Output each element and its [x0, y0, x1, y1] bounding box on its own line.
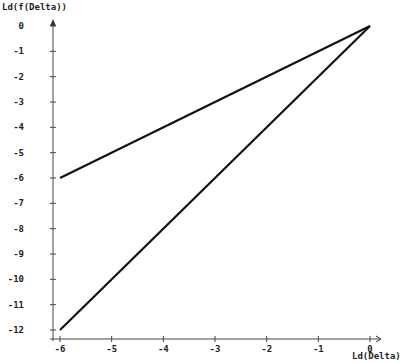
x-tick-label: 0: [367, 344, 372, 354]
x-tick-label: -1: [313, 344, 324, 354]
series-line: [60, 26, 370, 178]
y-tick-label: -1: [13, 46, 24, 56]
y-ticks: 0-1-2-3-4-5-6-7-8-9-10-11-12: [8, 21, 56, 335]
chart: Ld(f(Delta)) Ld(Delta) 0-1-2-3-4-5-6-7-8…: [0, 0, 407, 363]
x-axis-label: Ld(Delta): [352, 351, 401, 361]
y-tick-label: -4: [13, 122, 24, 132]
x-tick-label: -6: [55, 344, 66, 354]
x-tick-label: -2: [261, 344, 272, 354]
y-tick-label: -9: [13, 249, 24, 259]
y-tick-label: -2: [13, 72, 24, 82]
y-tick-label: 0: [19, 21, 24, 31]
y-tick-label: -10: [8, 274, 24, 284]
series-line: [60, 26, 370, 330]
x-tick-label: -5: [106, 344, 117, 354]
y-tick-label: -12: [8, 325, 24, 335]
y-axis-label: Ld(f(Delta)): [2, 2, 67, 12]
y-axis: [50, 19, 56, 341]
y-tick-label: -11: [8, 300, 24, 310]
y-tick-label: -3: [13, 97, 24, 107]
y-tick-label: -5: [13, 148, 24, 158]
y-tick-label: -8: [13, 224, 24, 234]
x-tick-label: -3: [210, 344, 221, 354]
x-tick-label: -4: [158, 344, 169, 354]
y-tick-label: -6: [13, 173, 24, 183]
y-tick-label: -7: [13, 198, 24, 208]
data-lines: [60, 26, 370, 330]
